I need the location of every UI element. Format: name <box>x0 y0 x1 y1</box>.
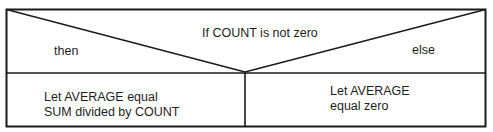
else-action-line: Let AVERAGE <box>330 84 410 99</box>
else-action-text: Let AVERAGE equal zero <box>330 84 410 114</box>
then-action-line: Let AVERAGE equal <box>44 90 179 105</box>
else-branch-label: else <box>412 43 435 58</box>
then-action-text: Let AVERAGE equal SUM divided by COUNT <box>44 90 179 120</box>
then-branch-label: then <box>54 44 78 59</box>
else-action-line: equal zero <box>330 99 410 114</box>
then-action-line: SUM divided by COUNT <box>44 105 179 120</box>
condition-text: If COUNT is not zero <box>202 26 318 41</box>
